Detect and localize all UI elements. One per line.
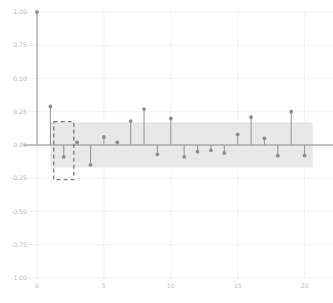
y-tick-label: -0.50: [11, 208, 27, 215]
plot-canvas: -1.00-0.75-0.50-0.250.000.250.500.751.00…: [0, 0, 333, 303]
stem-marker-lag-18: [276, 154, 280, 158]
y-tick-label: 0.00: [13, 141, 27, 148]
stem-marker-lag-10: [169, 117, 173, 121]
stem-marker-lag-3: [75, 140, 79, 144]
stem-marker-lag-20: [303, 154, 307, 158]
y-tick-label: 0.75: [13, 41, 27, 48]
stem-marker-lag-0: [35, 10, 39, 14]
x-tick-label: 0: [35, 282, 39, 289]
stem-marker-lag-5: [102, 135, 106, 139]
x-axis-tick-labels: 05101520: [35, 282, 309, 289]
stem-marker-lag-16: [249, 115, 253, 119]
stem-marker-lag-19: [289, 110, 293, 114]
stem-marker-lag-1: [48, 105, 52, 109]
stem-marker-lag-12: [196, 150, 200, 154]
y-tick-label: -0.75: [11, 241, 27, 248]
stem-marker-lag-11: [182, 155, 186, 159]
y-tick-label: 0.25: [13, 108, 27, 115]
x-tick-label: 15: [234, 282, 242, 289]
stem-marker-lag-8: [142, 107, 146, 111]
y-tick-label: -1.00: [11, 274, 27, 281]
stem-marker-lag-17: [263, 136, 267, 140]
stem-marker-lag-6: [115, 140, 119, 144]
stem-marker-lag-9: [156, 152, 160, 156]
stem-marker-lag-14: [222, 151, 226, 155]
y-tick-label: 0.50: [13, 75, 27, 82]
x-tick-label: 5: [102, 282, 106, 289]
stem-marker-lag-7: [129, 119, 133, 123]
y-tick-label: 1.00: [13, 8, 27, 15]
y-tick-label: -0.25: [11, 174, 27, 181]
stem-marker-lag-13: [209, 148, 213, 152]
stem-marker-lag-4: [89, 163, 93, 167]
x-tick-label: 10: [167, 282, 175, 289]
stem-marker-lag-15: [236, 132, 240, 136]
acf-chart: -1.00-0.75-0.50-0.250.000.250.500.751.00…: [0, 0, 333, 303]
stem-marker-lag-2: [62, 155, 66, 159]
x-tick-label: 20: [301, 282, 309, 289]
y-axis-tick-labels: -1.00-0.75-0.50-0.250.000.250.500.751.00: [11, 8, 27, 281]
